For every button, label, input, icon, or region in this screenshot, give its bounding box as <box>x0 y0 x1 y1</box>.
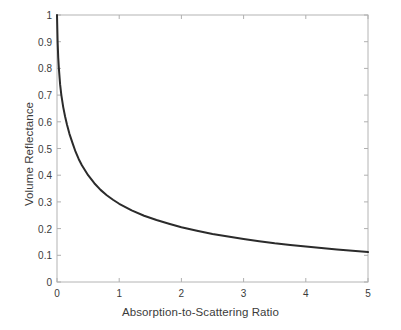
figure-container: 01234500.10.20.30.40.50.60.70.80.91 Abso… <box>0 0 401 330</box>
plot-frame <box>57 15 368 282</box>
x-tick-label: 5 <box>365 288 371 299</box>
x-tick-label: 0 <box>54 288 60 299</box>
x-tick-label: 4 <box>303 288 309 299</box>
x-axis-title: Absorption-to-Scattering Ratio <box>0 306 401 318</box>
x-tick-label: 2 <box>179 288 185 299</box>
y-tick-label: 1 <box>10 10 52 21</box>
x-tick-label: 1 <box>116 288 122 299</box>
y-tick-label: 0.9 <box>10 36 52 47</box>
chart-canvas <box>0 0 401 330</box>
y-axis-title: Volume Reflectance <box>23 59 35 249</box>
plot-background <box>57 15 368 282</box>
y-tick-label: 0.1 <box>10 250 52 261</box>
y-tick-label: 0 <box>10 277 52 288</box>
x-tick-label: 3 <box>241 288 247 299</box>
